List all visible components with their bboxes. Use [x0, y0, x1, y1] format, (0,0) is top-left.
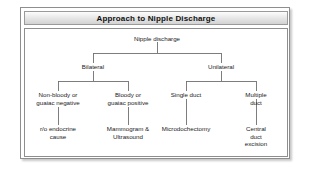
node-microdochectomy: Microdochectomy [162, 125, 211, 133]
node-nipple-discharge: Nipple discharge [134, 35, 180, 43]
figure-title: Approach to Nipple Discharge [97, 14, 216, 23]
node-unilateral: Unilateral [208, 63, 234, 71]
figure-frame: Approach to Nipple Discharge [20, 7, 290, 159]
node-bilateral: Bilateral [82, 63, 104, 71]
node-multiple-duct: Multiple duct [241, 91, 272, 106]
node-bloody-guaiac-positive: Bloody or guaiac positive [108, 91, 149, 106]
flowchart-canvas: Nipple discharge Bilateral Unilateral No… [25, 29, 287, 156]
node-mammogram-ultrasound: Mammogram & Ultrasound [107, 125, 149, 140]
node-non-bloody-guaiac-negative: Non-bloody or guaiac negative [36, 91, 79, 106]
node-single-duct: Single duct [171, 91, 202, 99]
figure-title-bar: Approach to Nipple Discharge [24, 11, 288, 25]
node-ro-endocrine-cause: r/o endocrine cause [40, 125, 76, 140]
node-central-duct-excision: Central duct excision [241, 125, 272, 148]
diagram-border: Nipple discharge Bilateral Unilateral No… [24, 28, 288, 157]
